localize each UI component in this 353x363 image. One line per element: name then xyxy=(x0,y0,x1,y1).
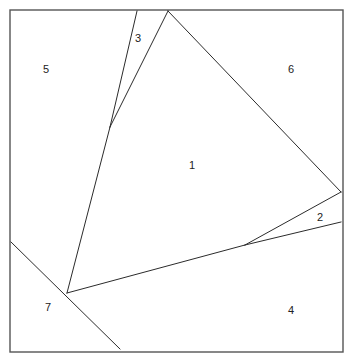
region-label-4: 4 xyxy=(288,304,294,316)
diagram-background xyxy=(0,0,353,363)
region-label-5: 5 xyxy=(43,63,49,75)
region-label-3: 3 xyxy=(135,32,141,44)
region-label-2: 2 xyxy=(317,211,323,223)
geometry-figure: 1234567 xyxy=(0,0,353,363)
region-label-1: 1 xyxy=(189,159,195,171)
region-label-7: 7 xyxy=(45,301,51,313)
region-label-6: 6 xyxy=(288,63,294,75)
diagram-root: 1234567 xyxy=(0,0,353,363)
